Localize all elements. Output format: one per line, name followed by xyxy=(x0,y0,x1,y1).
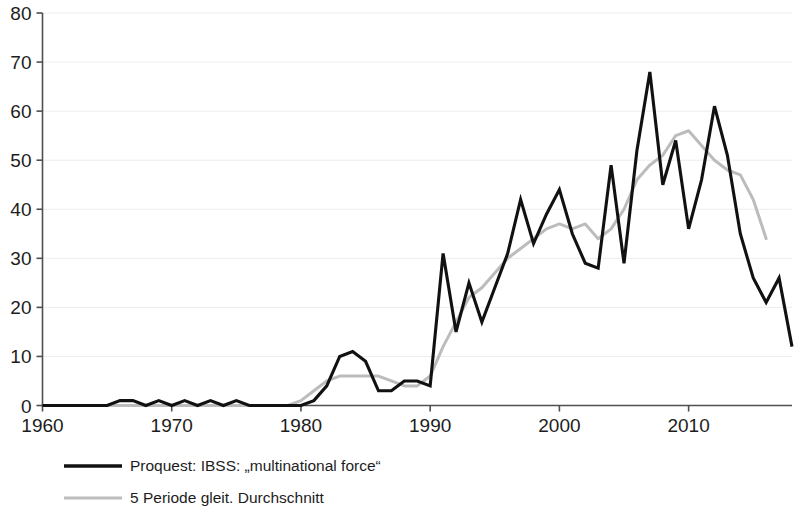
y-tick-label: 10 xyxy=(10,346,31,367)
y-tick-label: 80 xyxy=(10,3,31,24)
y-axis: 01020304050607080 xyxy=(10,3,42,417)
x-axis-ticks: 196019701980199020002010 xyxy=(21,406,709,436)
x-axis: 196019701980199020002010 xyxy=(21,406,792,436)
x-tick-label: 1990 xyxy=(409,415,451,436)
y-axis-ticks: 01020304050607080 xyxy=(10,3,42,417)
plot-series xyxy=(43,72,793,406)
y-tick-label: 70 xyxy=(10,52,31,73)
x-tick-label: 2000 xyxy=(538,415,580,436)
y-tick-label: 0 xyxy=(21,396,32,417)
y-tick-label: 40 xyxy=(10,199,31,220)
y-tick-label: 60 xyxy=(10,101,31,122)
y-tick-label: 20 xyxy=(10,297,31,318)
legend-label-proquest: Proquest: IBSS: „multinational force“ xyxy=(130,457,381,474)
gridlines xyxy=(43,13,793,356)
line-chart: 01020304050607080 1960197019801990200020… xyxy=(0,0,798,509)
y-tick-label: 50 xyxy=(10,150,31,171)
chart-container: 01020304050607080 1960197019801990200020… xyxy=(0,0,798,509)
legend-label-moving-average: 5 Periode gleit. Durchschnitt xyxy=(130,489,325,506)
x-tick-label: 1980 xyxy=(280,415,322,436)
series-proquest-ibss xyxy=(43,72,793,406)
x-tick-label: 1970 xyxy=(151,415,193,436)
y-tick-label: 30 xyxy=(10,248,31,269)
x-tick-label: 2010 xyxy=(667,415,709,436)
x-tick-label: 1960 xyxy=(21,415,63,436)
legend: Proquest: IBSS: „multinational force“ 5 … xyxy=(64,457,381,506)
